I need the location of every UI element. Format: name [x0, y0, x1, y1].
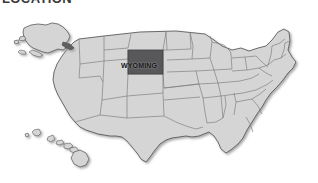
page-title-clip: LOCATION: [0, 0, 140, 6]
state-label-wyoming: WYOMING: [121, 62, 157, 70]
united-states-map[interactable]: [0, 10, 318, 183]
contiguous-states-group: [53, 29, 296, 162]
map-stage: WYOMING: [0, 10, 318, 183]
contiguous-landmass: [53, 29, 296, 162]
location-map-page: LOCATION: [0, 0, 318, 183]
hawaii-inset[interactable]: [25, 129, 89, 167]
page-title: LOCATION: [2, 0, 72, 6]
